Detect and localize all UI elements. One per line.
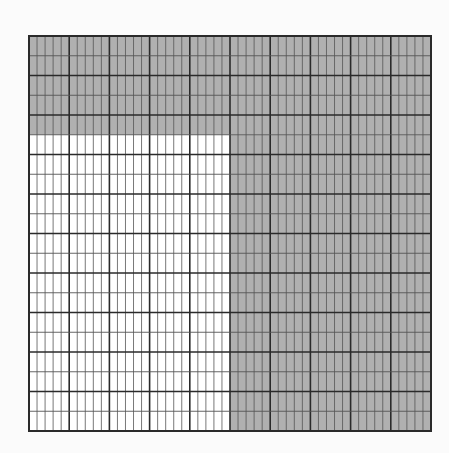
shaded-region-right-block: [230, 135, 431, 431]
grid-svg: [28, 35, 432, 432]
shaded-grid-diagram: [28, 35, 432, 432]
